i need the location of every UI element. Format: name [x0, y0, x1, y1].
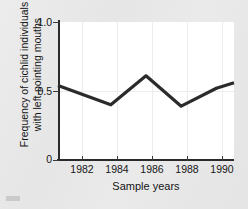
data-series-line: [58, 76, 234, 106]
figure-container: 1.0 0.5 0 1982 1984 1986 1988 1990 Sampl…: [0, 0, 248, 209]
series-svg: [0, 0, 248, 209]
scan-artifact: [6, 196, 20, 201]
